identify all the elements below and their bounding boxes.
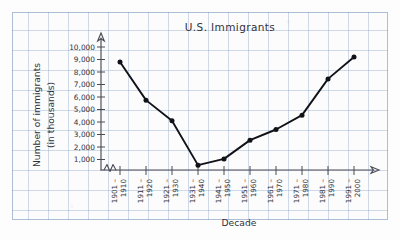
x-tick-label-bottom: 1930	[171, 179, 180, 198]
x-axis-title: Decade	[222, 217, 257, 228]
x-tick-label-top: 1931 –	[188, 179, 197, 204]
x-axis-tick-labels: 1901 – 1910 1911 – 1920 1921 – 1930 1931…	[110, 179, 362, 204]
y-tick-label: 9,000	[74, 55, 95, 64]
y-tick-label: 1,000	[74, 155, 95, 164]
y-tick-label: 3,000	[74, 130, 95, 139]
data-point	[144, 98, 149, 103]
data-point	[274, 127, 279, 132]
x-tick-label-top: 1991 –	[344, 179, 353, 204]
chart-page: U.S. Immigrants 1,000 2,000 3,000 4,000 …	[0, 0, 400, 240]
x-tick-label-bottom: 1990	[327, 179, 336, 198]
x-tick-label-bottom: 1960	[249, 179, 258, 198]
x-tick-label-top: 1961 –	[266, 179, 275, 204]
data-point	[326, 76, 331, 81]
data-point	[170, 118, 175, 123]
y-tick-label: 5,000	[74, 105, 95, 114]
x-tick-label-top: 1971 –	[292, 179, 301, 204]
line-chart: U.S. Immigrants 1,000 2,000 3,000 4,000 …	[0, 0, 400, 240]
x-tick-label-bottom: 1970	[275, 179, 284, 198]
y-tick-label: 2,000	[74, 143, 95, 152]
y-tick-label: 10,000	[69, 43, 95, 52]
x-tick-label-bottom: 1920	[145, 179, 154, 198]
x-tick-label-bottom: 1940	[197, 179, 206, 198]
y-tick-label: 8,000	[74, 68, 95, 77]
x-tick-label-top: 1901 –	[110, 179, 119, 204]
x-tick-label-bottom: 1980	[301, 179, 310, 198]
x-tick-label-top: 1941 –	[214, 179, 223, 204]
y-tick-label: 7,000	[74, 80, 95, 89]
x-tick-label-bottom: 2000	[353, 179, 362, 198]
data-point	[196, 163, 201, 168]
x-tick-label-top: 1951 –	[240, 179, 249, 204]
data-point	[300, 113, 305, 118]
data-line	[120, 57, 354, 165]
data-point	[248, 138, 253, 143]
y-axis-title-line1: Number of immigrants	[31, 63, 42, 167]
x-tick-label-top: 1911 –	[136, 179, 145, 204]
data-point	[118, 60, 123, 65]
x-tick-label-bottom: 1950	[223, 179, 232, 198]
y-tick-label: 6,000	[74, 93, 95, 102]
y-tick-label: 4,000	[74, 118, 95, 127]
chart-title: U.S. Immigrants	[185, 21, 276, 33]
data-point	[222, 156, 227, 161]
x-tick-label-top: 1981 –	[318, 179, 327, 204]
y-axis-title-line2: (in thousands)	[45, 82, 56, 148]
x-tick-label-top: 1921 –	[162, 179, 171, 204]
x-tick-label-bottom: 1910	[119, 179, 128, 198]
y-axis-tick-labels: 1,000 2,000 3,000 4,000 5,000 6,000 7,00…	[69, 43, 95, 165]
data-point	[352, 55, 357, 60]
